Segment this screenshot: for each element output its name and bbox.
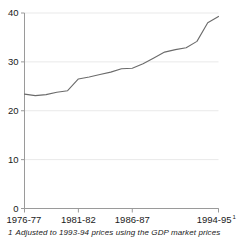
x-tick-footnote-marker: 1 [233,214,237,220]
y-tick-label-40: 40 [8,7,19,18]
y-tick-label-30: 30 [8,56,19,67]
y-axis-group [21,13,25,209]
x-tick-label-1976-77: 1976-77 [7,214,42,225]
y-tick-labels-group: 010203040 [8,7,19,214]
footnote-number: 1 [8,228,13,237]
x-tick-label-1981-82: 1981-82 [61,214,96,225]
chart-figure: 010203040 1976-771981-821986-871994-951 … [0,0,240,244]
y-tick-label-20: 20 [8,105,19,116]
gridlines-group [25,13,219,209]
footnote: 1Adjusted to 1993-94 prices using the GD… [8,228,238,237]
data-line-series [25,16,219,95]
y-tick-label-0: 0 [13,203,18,214]
y-tick-label-10: 10 [8,154,19,165]
x-tick-label-1994-95: 1994-95 [197,214,232,225]
line-chart-svg: 010203040 1976-771981-821986-871994-951 [0,0,240,226]
x-tick-label-1986-87: 1986-87 [115,214,150,225]
chart-plot-area: 010203040 1976-771981-821986-871994-951 [0,0,240,226]
data-series-group [25,16,219,95]
footnote-text: Adjusted to 1993-94 prices using the GDP… [16,228,221,237]
x-axis-group [25,209,219,213]
x-tick-labels-group: 1976-771981-821986-871994-951 [7,214,237,225]
